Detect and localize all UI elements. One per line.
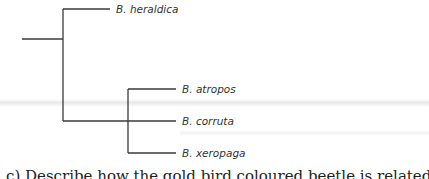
taxon-label-corruta: B. corruta <box>182 115 234 127</box>
taxon-label-xeropaga: B. xeropaga <box>182 147 246 159</box>
question-caption: c) Describe how the gold bird coloured b… <box>6 167 429 179</box>
taxon-label-heraldica: B. heraldica <box>116 3 178 15</box>
taxon-label-atropos: B. atropos <box>182 83 236 95</box>
